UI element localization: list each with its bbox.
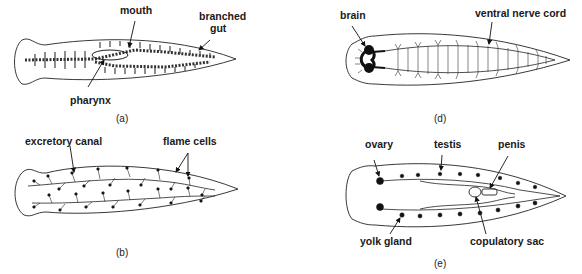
label-penis: penis [498,139,525,150]
caption-b: (b) [116,247,128,258]
label-flame-cells: flame cells [163,136,217,147]
panel-b-canals [28,179,215,203]
caption-d: (d) [434,113,446,124]
label-copulatory-sac: copulatory sac [470,236,544,247]
label-branched-gut-line2: gut [210,23,226,34]
label-pharynx: pharynx [70,95,111,106]
caption-e: (e) [434,258,446,269]
label-mouth: mouth [120,5,152,16]
label-excretory-canal: excretory canal [25,136,102,147]
panel-a-gut-branches [35,41,210,74]
label-yolk-gland: yolk gland [360,236,412,247]
panel-a-gut [25,50,215,67]
panel-d-nerve-cords [385,46,555,73]
label-ventral-nerve-cord: ventral nerve cord [475,8,566,19]
panel-b-flame-cells [33,167,205,212]
label-testis: testis [434,139,461,150]
label-branched-gut-line1: branched [199,11,246,22]
panel-b-pointers [70,146,188,176]
panel-a-pointers [88,21,210,87]
panel-e-body [346,164,566,227]
label-ovary: ovary [365,139,393,150]
caption-a: (a) [116,113,128,124]
label-brain: brain [340,10,366,21]
panel-e-pointers [374,155,508,234]
panel-e-gonads [377,172,538,218]
panel-d-brain [361,47,385,72]
